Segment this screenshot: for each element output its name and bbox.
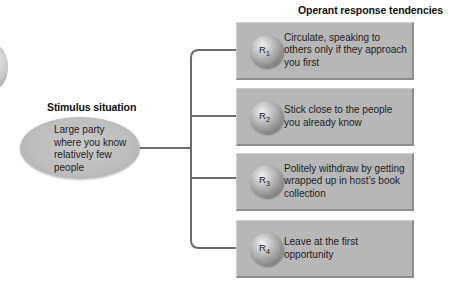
response-sphere-icon: R2	[250, 101, 283, 134]
response-label: R3	[259, 174, 270, 187]
response-label: R2	[259, 110, 270, 123]
response-text: Circulate, speaking to others only if th…	[284, 23, 409, 78]
response-box-4: R4 Leave at the first opportunity	[236, 220, 414, 278]
response-label: R4	[259, 242, 270, 255]
stimulus-text: Large party where you know relatively fe…	[54, 124, 134, 174]
response-text: Leave at the first opportunity	[284, 221, 409, 276]
response-text: Stick close to the people you already kn…	[284, 89, 409, 144]
response-box-1: R1 Circulate, speaking to others only if…	[236, 22, 414, 80]
response-text: Politely withdraw by getting wrapped up …	[284, 154, 409, 209]
stimulus-heading: Stimulus situation	[47, 101, 136, 113]
response-sphere-icon: R1	[250, 35, 283, 68]
response-box-3: R3 Politely withdraw by getting wrapped …	[236, 153, 414, 211]
response-label: R1	[259, 44, 270, 57]
response-sphere-icon: R4	[250, 233, 283, 266]
response-box-2: R2 Stick close to the people you already…	[236, 88, 414, 146]
response-sphere-icon: R3	[250, 165, 283, 198]
diagram-title: Operant response tendencies	[298, 4, 443, 16]
